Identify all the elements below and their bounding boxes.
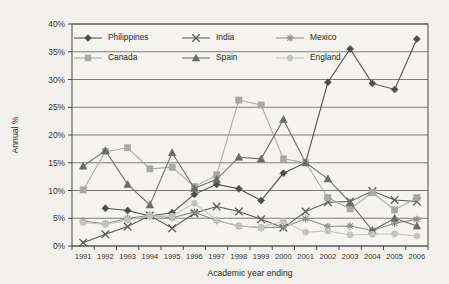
marker-circle xyxy=(102,221,108,227)
legend-label-mexico: Mexico xyxy=(310,32,337,42)
marker-circle xyxy=(191,200,197,206)
marker-circle xyxy=(147,213,153,219)
x-axis-title: Academic year ending xyxy=(207,268,292,278)
x-tick-label: 2000 xyxy=(275,252,292,261)
marker-asterisk xyxy=(302,215,309,222)
x-tick-label: 2002 xyxy=(319,252,336,261)
marker-asterisk xyxy=(286,34,293,41)
x-tick-label: 1993 xyxy=(119,252,136,261)
x-tick-label: 2005 xyxy=(386,252,403,261)
legend-label-canada: Canada xyxy=(108,52,138,62)
y-tick-label: 40% xyxy=(48,19,65,29)
marker-circle xyxy=(347,232,353,238)
x-tick-label: 1995 xyxy=(164,252,181,261)
marker-circle xyxy=(125,217,131,223)
line-chart: 0%5%10%15%20%25%30%35%40% 19911992199319… xyxy=(0,0,449,284)
marker-square xyxy=(347,206,353,212)
legend-label-england: England xyxy=(310,52,341,62)
marker-circle xyxy=(414,233,420,239)
marker-circle xyxy=(236,223,242,229)
marker-asterisk xyxy=(191,208,198,215)
marker-square xyxy=(392,207,398,213)
legend-label-india: India xyxy=(216,32,235,42)
marker-circle xyxy=(169,213,175,219)
marker-circle xyxy=(325,228,331,234)
marker-square xyxy=(80,187,86,193)
x-tick-label: 1999 xyxy=(253,252,270,261)
y-tick-label: 20% xyxy=(48,130,65,140)
marker-circle xyxy=(280,218,286,224)
marker-square xyxy=(369,190,375,196)
marker-square xyxy=(147,166,153,172)
legend-label-spain: Spain xyxy=(216,52,238,62)
x-tick-label: 1997 xyxy=(208,252,225,261)
marker-square xyxy=(258,102,264,108)
marker-square xyxy=(325,195,331,201)
x-tick-label: 2001 xyxy=(297,252,314,261)
y-tick-label: 10% xyxy=(48,186,65,196)
marker-circle xyxy=(287,55,293,61)
legend-label-philippines: Philippines xyxy=(108,32,149,42)
x-tick-label: 1998 xyxy=(230,252,247,261)
marker-square xyxy=(414,195,420,201)
marker-square xyxy=(85,55,91,61)
x-tick-label: 2004 xyxy=(364,252,381,261)
marker-circle xyxy=(303,229,309,235)
marker-circle xyxy=(258,224,264,230)
marker-circle xyxy=(392,231,398,237)
chart-canvas: 0%5%10%15%20%25%30%35%40% 19911992199319… xyxy=(0,0,449,284)
x-tick-label: 2006 xyxy=(408,252,425,261)
x-tick-label: 2003 xyxy=(342,252,359,261)
y-tick-label: 35% xyxy=(48,47,65,57)
marker-square xyxy=(236,97,242,103)
x-tick-label: 1991 xyxy=(75,252,92,261)
y-tick-label: 30% xyxy=(48,75,65,85)
marker-circle xyxy=(369,231,375,237)
marker-asterisk xyxy=(346,222,353,229)
x-tick-label: 1994 xyxy=(141,252,158,261)
marker-circle xyxy=(80,220,86,226)
y-tick-label: 0% xyxy=(53,241,66,251)
y-axis-title: Annual % xyxy=(10,116,20,153)
x-tick-label: 1992 xyxy=(97,252,114,261)
y-tick-label: 5% xyxy=(53,213,66,223)
marker-square xyxy=(125,145,131,151)
marker-square xyxy=(169,164,175,170)
x-tick-label: 1996 xyxy=(186,252,203,261)
marker-square xyxy=(280,156,286,162)
y-tick-label: 25% xyxy=(48,102,65,112)
y-tick-label: 15% xyxy=(48,158,65,168)
marker-circle xyxy=(214,217,220,223)
marker-asterisk xyxy=(280,223,287,230)
